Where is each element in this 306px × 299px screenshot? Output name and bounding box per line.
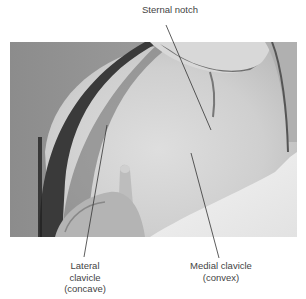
label-text: Medial clavicle [176,260,266,272]
shoulder-photo [10,42,297,237]
label-text: Sternal notch [130,4,210,16]
label-text: clavicle [50,272,120,284]
label-medial-clavicle: Medial clavicle (convex) [176,260,266,283]
label-text: (convex) [176,272,266,284]
label-sternal-notch: Sternal notch [130,4,210,16]
label-text: (concave) [50,283,120,295]
label-text: Lateral [50,260,120,272]
label-lateral-clavicle: Lateral clavicle (concave) [50,260,120,295]
anatomy-figure: Sternal notch Lateral clavicle (concave)… [0,0,306,299]
